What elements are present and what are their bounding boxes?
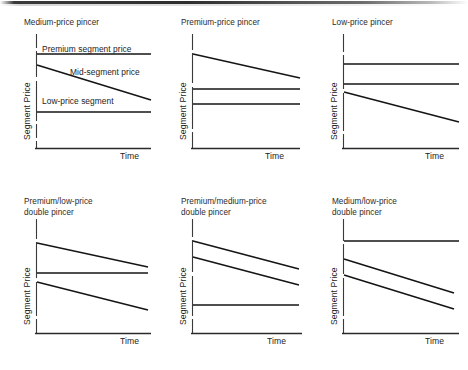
plot-area	[186, 32, 304, 154]
series-line-low	[344, 275, 454, 309]
annotation-premium-segment-price: Premium segment price	[42, 44, 131, 54]
series-line-mid	[193, 257, 299, 285]
plot-svg	[30, 217, 155, 339]
plot-area	[337, 217, 462, 339]
annotation-low-price-segment: Low-price segment	[42, 96, 114, 106]
plot-area	[186, 217, 306, 339]
series-line-premium	[193, 54, 300, 78]
series-line-low	[37, 282, 148, 310]
panel-title: Medium-price pincer	[24, 18, 154, 29]
plot-area	[337, 32, 462, 154]
panel-title: Medium/low-price double pincer	[332, 197, 467, 218]
series-line-low	[344, 92, 459, 122]
plot-svg	[186, 217, 306, 339]
chart-panel-premium-low-price-double-pincer: Premium/low-price double pincer Segment …	[0, 185, 160, 370]
panel-title: Premium/medium-price double pincer	[181, 197, 321, 218]
annotation-mid-segment-price: Mid-segment price	[70, 67, 140, 77]
series-line-premium	[193, 241, 299, 269]
series-line-mid	[344, 259, 454, 293]
panel-title: Low-price pincer	[332, 18, 462, 29]
plot-svg	[337, 32, 462, 154]
plot-svg	[186, 32, 304, 154]
chart-panel-medium-low-price-double-pincer: Medium/low-price double pincer Segment P…	[308, 185, 468, 370]
series-line-premium	[37, 243, 148, 267]
chart-panel-medium-price-pincer: Medium-price pincer Segment Price Time P…	[0, 0, 160, 185]
plot-svg	[337, 217, 462, 339]
chart-panel-low-price-pincer: Low-price pincer Segment Price Time	[308, 0, 468, 185]
panel-title: Premium-price pincer	[181, 18, 311, 29]
figure-panel-grid: Medium-price pincer Segment Price Time P…	[0, 0, 468, 370]
plot-area	[30, 217, 155, 339]
chart-panel-premium-medium-price-double-pincer: Premium/medium-price double pincer Segme…	[155, 185, 310, 370]
panel-title: Premium/low-price double pincer	[24, 197, 154, 218]
chart-panel-premium-price-pincer: Premium-price pincer Segment Price Time	[155, 0, 310, 185]
